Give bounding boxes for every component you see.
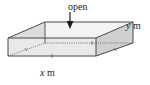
width-dimension-label: x m xyxy=(40,68,55,78)
front-face xyxy=(8,38,96,56)
depth-dimension-label: y m xyxy=(126,21,141,31)
open-box-diagram xyxy=(0,0,150,85)
open-label: open xyxy=(68,2,87,12)
figure-container: open y m x m xyxy=(0,0,150,85)
width-variable: x xyxy=(40,67,44,78)
depth-unit: m xyxy=(133,20,141,31)
width-unit: m xyxy=(47,67,55,78)
depth-variable: y xyxy=(126,20,130,31)
